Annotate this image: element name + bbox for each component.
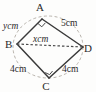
diagonal-bd [17, 44, 83, 47]
vertex-label-d: D [84, 42, 92, 54]
cyclic-quadrilateral-svg: A B C D ycm 5cm xcm 4cm 4cm [0, 0, 96, 92]
right-angle-mark-a [38, 23, 45, 27]
measure-label-ab: ycm [2, 21, 18, 31]
measure-label-bd: xcm [32, 34, 48, 44]
measure-label-bc: 4cm [10, 64, 27, 74]
vertex-label-b: B [5, 38, 12, 50]
measure-label-cd: 4cm [62, 64, 79, 74]
measure-label-ad: 5cm [61, 18, 78, 28]
vertex-label-a: A [36, 1, 44, 13]
geometry-figure: A B C D ycm 5cm xcm 4cm 4cm [0, 0, 96, 92]
vertex-label-c: C [42, 80, 49, 92]
